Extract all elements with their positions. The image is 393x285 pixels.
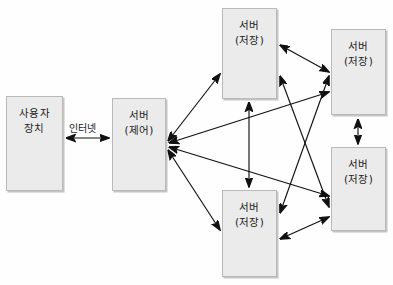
- node-label-line1: 서버: [129, 108, 149, 123]
- node-label-line2: (저장): [344, 54, 373, 69]
- node-user-device[interactable]: 사용자 장치: [6, 96, 63, 191]
- link-bottomcenter-bottomright: [280, 217, 329, 239]
- edge-label-internet: 인터넷: [69, 120, 96, 135]
- node-label-line2: (저장): [235, 33, 264, 48]
- node-server-storage-top-right[interactable]: 서버 (저장): [331, 29, 386, 115]
- node-label-line2: (저장): [344, 172, 373, 187]
- node-server-control[interactable]: 서버 (제어): [112, 98, 166, 191]
- node-label-line1: 서버: [348, 157, 368, 172]
- node-label-line1: 사용자: [19, 106, 50, 121]
- node-label-line2: (저장): [235, 215, 264, 230]
- node-server-storage-bottom-right[interactable]: 서버 (저장): [331, 147, 386, 231]
- node-label-line1: 서버: [239, 200, 259, 215]
- node-label-line2: (제어): [125, 123, 154, 138]
- node-label-line1: 서버: [239, 18, 259, 33]
- node-label-line1: 서버: [348, 39, 368, 54]
- network-diagram: 사용자 장치 서버 (제어) 서버 (저장) 서버 (저장) 서버 (저장) 서…: [0, 0, 393, 285]
- node-label-line2: 장치: [24, 121, 44, 136]
- link-topcenter-topright: [280, 45, 329, 72]
- link-control-top-center: [168, 74, 220, 141]
- node-server-storage-top-center[interactable]: 서버 (저장): [222, 8, 277, 99]
- node-server-storage-bottom-center[interactable]: 서버 (저장): [222, 190, 277, 277]
- link-control-bottom-center: [168, 150, 220, 230]
